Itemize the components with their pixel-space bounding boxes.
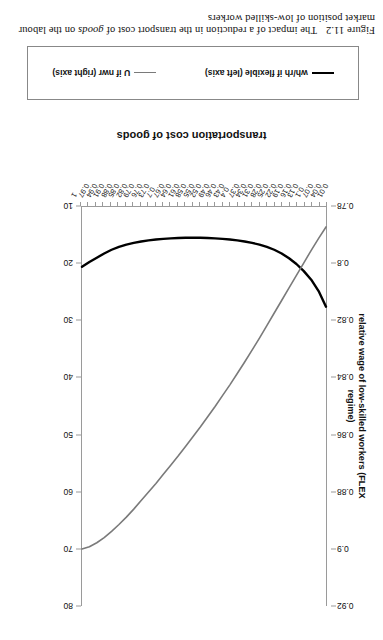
x-axis-tick-mark (162, 202, 163, 206)
left-axis: 0.920.90.880.860.840.820.80.78 relative … (331, 206, 383, 606)
x-axis-tick-mark (304, 202, 305, 206)
x-axis-tick-mark (296, 202, 297, 206)
x-axis-tick-mark (87, 202, 88, 206)
x-axis: 0.010.040.070.10.130.160.190.220.250.280… (81, 144, 327, 206)
legend-line-icon-black (312, 72, 334, 74)
left-axis-tick-label: 0.9 (337, 544, 349, 554)
x-axis-tick-mark (132, 202, 133, 206)
legend-label-wh-rh: wh/rh if flexible (left axis) (205, 68, 308, 78)
right-axis-tick-mark (76, 377, 81, 378)
x-axis-tick-mark (155, 202, 156, 206)
x-axis-tick-mark (274, 202, 275, 206)
plot-canvas (82, 207, 326, 606)
left-axis-title: relative wage of low-skilled workers (FL… (345, 301, 367, 511)
right-axis-tick-label: 60 (64, 487, 73, 497)
right-axis-tick-label: 40 (64, 372, 73, 382)
left-axis-tick-label: 0.8 (337, 258, 349, 268)
plot-area (81, 206, 327, 606)
x-axis-tick-mark (251, 202, 252, 206)
x-axis-tick-mark (199, 202, 200, 206)
x-axis-tick-mark (102, 202, 103, 206)
series-line (82, 227, 326, 549)
x-axis-tick-mark (95, 202, 96, 206)
x-axis-tick-mark (147, 202, 148, 206)
left-axis-tick-mark (331, 377, 336, 378)
x-axis-title: transportation cost of goods (0, 130, 383, 142)
x-axis-tick-mark (326, 202, 327, 206)
x-axis-tick-mark (80, 202, 81, 206)
caption-text-italic: goods (78, 25, 104, 36)
right-axis-tick-label: 50 (64, 430, 73, 440)
right-axis-tick-mark (76, 263, 81, 264)
chart-legend: wh/rh if flexible (left axis) U if nwr (… (27, 46, 359, 100)
right-axis-tick-mark (76, 491, 81, 492)
right-axis-tick-mark (76, 548, 81, 549)
x-axis-tick-mark (214, 202, 215, 206)
left-axis-tick-label: 0.92 (337, 601, 354, 611)
left-axis-tick-mark (331, 320, 336, 321)
left-axis-tick-mark (331, 491, 336, 492)
series-line (82, 238, 326, 307)
left-axis-tick-mark (331, 548, 336, 549)
right-axis-tick-mark (76, 320, 81, 321)
left-axis-tick-mark (331, 206, 336, 207)
figure-11-2: 0.920.90.880.860.840.820.80.78 relative … (0, 0, 383, 640)
left-axis-tick-label: 0.78 (337, 201, 354, 211)
right-axis-tick-label: 80 (64, 601, 73, 611)
legend-line-icon-gray (134, 73, 156, 74)
x-axis-tick-mark (207, 202, 208, 206)
x-axis-tick-mark (117, 202, 118, 206)
x-axis-tick-mark (289, 202, 290, 206)
x-axis-tick-mark (266, 202, 267, 206)
right-axis-tick-label: 30 (64, 315, 73, 325)
right-axis-tick-mark (76, 606, 81, 607)
figure-rotator: 0.920.90.880.860.840.820.80.78 relative … (0, 0, 383, 640)
x-axis-tick-mark (169, 202, 170, 206)
right-axis-tick-label: 10 (64, 201, 73, 211)
x-axis-tick-mark (177, 202, 178, 206)
legend-entry-u-nwr: U if nwr (right axis) (52, 68, 156, 78)
x-axis-tick-mark (259, 202, 260, 206)
left-axis-tick-mark (331, 434, 336, 435)
x-axis-tick-mark (192, 202, 193, 206)
x-axis-tick-mark (237, 202, 238, 206)
caption-text-before: The impact of a reduction in the transpo… (104, 25, 317, 36)
x-axis-tick-mark (222, 202, 223, 206)
right-axis-tick-label: 20 (64, 258, 73, 268)
x-axis-tick-mark (125, 202, 126, 206)
left-axis-tick-mark (331, 606, 336, 607)
legend-label-u-nwr: U if nwr (right axis) (52, 68, 130, 78)
x-axis-tick-mark (311, 202, 312, 206)
x-axis-tick-mark (319, 202, 320, 206)
right-axis-tick-mark (76, 434, 81, 435)
x-axis-tick-mark (281, 202, 282, 206)
legend-entry-wh-rh: wh/rh if flexible (left axis) (205, 68, 334, 78)
x-axis-tick-mark (229, 202, 230, 206)
figure-number: Figure 11.2 (326, 25, 375, 36)
right-axis-tick-label: 70 (64, 544, 73, 554)
x-axis-tick-mark (140, 202, 141, 206)
x-axis-tick-mark (110, 202, 111, 206)
left-axis-tick-mark (331, 263, 336, 264)
x-axis-tick-mark (184, 202, 185, 206)
figure-caption: Figure 11.2The impact of a reduction in … (7, 12, 375, 36)
right-axis: 8070605040302010 unemployment (RWR regim… (21, 206, 81, 606)
x-axis-tick-mark (244, 202, 245, 206)
